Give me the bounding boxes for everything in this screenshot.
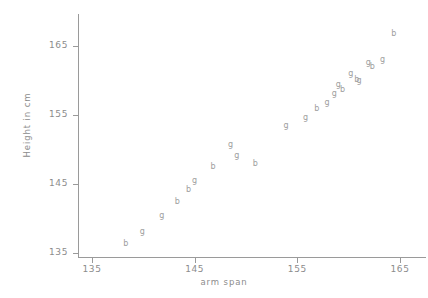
data-point-marker-g: g	[140, 228, 145, 236]
scatter-plot-figure: 135145155165 135145155165 Height in cm a…	[0, 0, 428, 298]
y-tick-label: 145	[34, 178, 68, 188]
data-point-marker-b: b	[253, 160, 258, 168]
y-axis-line	[78, 14, 79, 257]
data-point-marker-g: g	[380, 56, 385, 64]
data-point-marker-g: g	[348, 70, 353, 78]
y-tick-mark	[73, 184, 79, 185]
x-tick-label: 135	[72, 264, 112, 274]
data-point-marker-b: b	[123, 240, 128, 248]
y-tick-label: 155	[34, 109, 68, 119]
x-tick-mark	[92, 257, 93, 263]
y-tick-mark	[73, 46, 79, 47]
x-tick-label: 145	[175, 264, 215, 274]
x-tick-mark	[297, 257, 298, 263]
y-tick-label: 165	[34, 40, 68, 50]
x-tick-mark	[400, 257, 401, 263]
x-tick-label: 165	[380, 264, 420, 274]
y-tick-label: 135	[34, 247, 68, 257]
data-point-marker-b: b	[211, 163, 216, 171]
data-point-marker-g: g	[283, 122, 288, 130]
data-point-marker-b: b	[186, 186, 191, 194]
y-tick-mark	[73, 115, 79, 116]
data-point-marker-g: g	[159, 212, 164, 220]
data-point-marker-g: g	[325, 99, 330, 107]
x-axis-line	[78, 257, 426, 258]
x-axis-title: arm span	[164, 277, 284, 287]
x-tick-mark	[195, 257, 196, 263]
data-point-marker-g: g	[228, 141, 233, 149]
data-point-marker-g: g	[332, 90, 337, 98]
data-point-marker-g: g	[192, 177, 197, 185]
data-point-marker-g: g	[366, 59, 371, 67]
data-point-marker-g: g	[234, 152, 239, 160]
data-point-marker-g: g	[356, 77, 361, 85]
y-axis-title: Height in cm	[22, 70, 32, 180]
x-tick-label: 155	[277, 264, 317, 274]
y-tick-mark	[73, 253, 79, 254]
data-point-marker-g: g	[336, 81, 341, 89]
data-point-marker-b: b	[314, 105, 319, 113]
data-point-marker-g: g	[303, 114, 308, 122]
data-point-marker-b: b	[175, 198, 180, 206]
data-point-marker-b: b	[391, 30, 396, 38]
